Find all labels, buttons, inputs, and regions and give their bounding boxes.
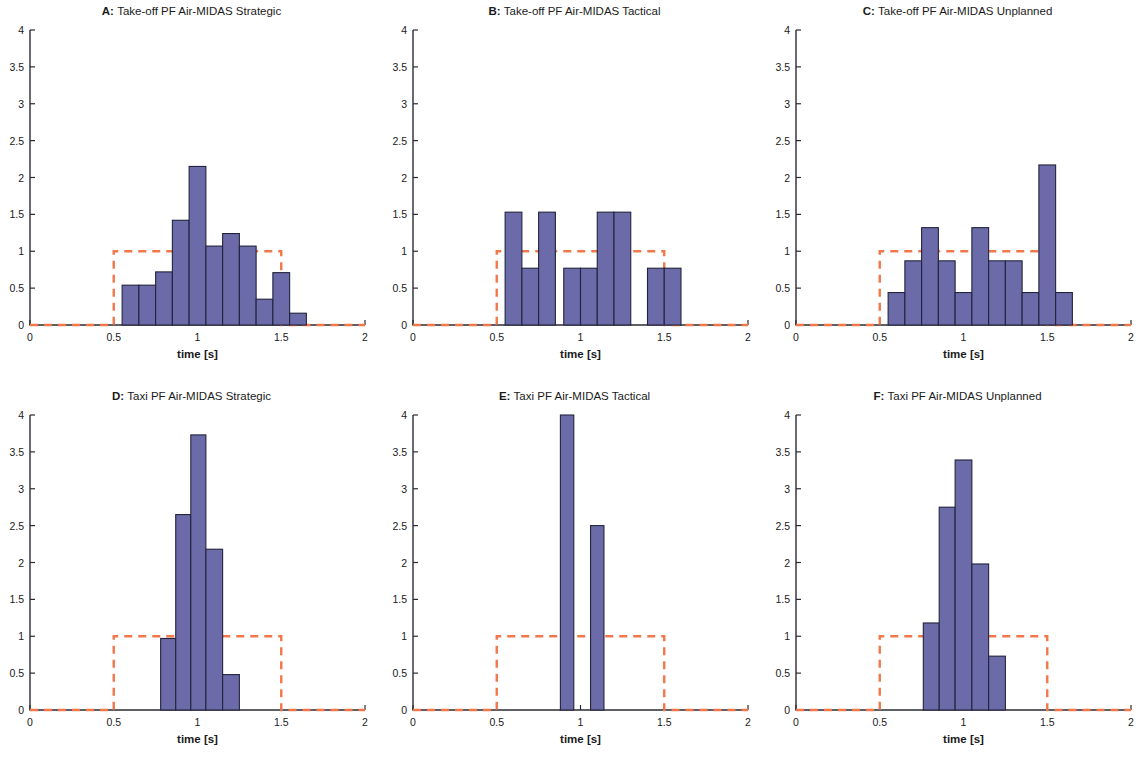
- svg-text:1.5: 1.5: [274, 716, 289, 728]
- histogram-bar: [597, 212, 614, 325]
- svg-text:2: 2: [401, 557, 407, 569]
- histogram-bar: [989, 261, 1006, 325]
- svg-text:1: 1: [401, 245, 407, 257]
- histogram-bar: [1022, 293, 1039, 325]
- svg-text:2: 2: [745, 716, 751, 728]
- panel-title: F: Taxi PF Air-MIDAS Unplanned: [873, 390, 1041, 402]
- svg-text:0.5: 0.5: [775, 282, 790, 294]
- svg-text:3: 3: [784, 98, 790, 110]
- svg-text:2.5: 2.5: [392, 135, 407, 147]
- y-axis-ticks: 00.511.522.533.54: [9, 409, 35, 716]
- reference-box: [413, 636, 748, 710]
- svg-text:2: 2: [401, 172, 407, 184]
- svg-text:0.5: 0.5: [392, 667, 407, 679]
- svg-text:1.5: 1.5: [775, 208, 790, 220]
- svg-text:1.5: 1.5: [392, 208, 407, 220]
- histogram-bar: [156, 272, 173, 325]
- histogram-bar: [591, 526, 604, 710]
- svg-text:0: 0: [410, 716, 416, 728]
- svg-text:3.5: 3.5: [392, 61, 407, 73]
- svg-text:1: 1: [578, 331, 584, 343]
- svg-text:4: 4: [401, 24, 407, 36]
- chart-panel-b: B: Take-off PF Air-MIDAS Tactical00.511.…: [383, 0, 766, 385]
- histogram-bars: [161, 435, 240, 710]
- svg-text:0: 0: [793, 331, 799, 343]
- svg-text:2: 2: [362, 331, 368, 343]
- svg-text:3.5: 3.5: [9, 446, 24, 458]
- y-axis-ticks: 00.511.522.533.54: [392, 24, 418, 331]
- histogram-bar: [122, 285, 139, 325]
- svg-text:3: 3: [401, 98, 407, 110]
- svg-text:0.5: 0.5: [489, 331, 504, 343]
- svg-text:2: 2: [1128, 331, 1134, 343]
- svg-text:1.5: 1.5: [9, 208, 24, 220]
- svg-text:1.5: 1.5: [1040, 716, 1055, 728]
- svg-text:0: 0: [784, 319, 790, 331]
- svg-text:0: 0: [18, 704, 24, 716]
- histogram-bars: [122, 166, 306, 325]
- histogram-bar: [922, 228, 939, 325]
- svg-text:4: 4: [784, 409, 790, 421]
- histogram-bar: [939, 507, 955, 710]
- chart-panel-f: F: Taxi PF Air-MIDAS Unplanned00.511.522…: [766, 385, 1148, 770]
- x-axis-label: time [s]: [177, 348, 218, 360]
- axes: [796, 30, 1131, 325]
- svg-text:1.5: 1.5: [775, 593, 790, 605]
- svg-text:4: 4: [18, 24, 24, 36]
- svg-text:0: 0: [18, 319, 24, 331]
- histogram-bar: [581, 268, 598, 325]
- histogram-bar: [972, 564, 989, 710]
- histogram-bar: [955, 293, 972, 325]
- svg-text:1: 1: [578, 716, 584, 728]
- x-axis-label: time [s]: [560, 733, 601, 745]
- svg-text:3: 3: [18, 483, 24, 495]
- svg-text:4: 4: [784, 24, 790, 36]
- svg-text:1.5: 1.5: [657, 716, 672, 728]
- histogram-bar: [172, 220, 189, 325]
- histogram-bar: [206, 549, 223, 710]
- histogram-bars: [560, 415, 604, 710]
- svg-text:0: 0: [401, 704, 407, 716]
- svg-text:0.5: 0.5: [489, 716, 504, 728]
- svg-text:3.5: 3.5: [775, 61, 790, 73]
- axes: [413, 415, 748, 710]
- histogram-bar: [1056, 293, 1073, 325]
- svg-text:1: 1: [18, 630, 24, 642]
- histogram-bar: [989, 656, 1006, 710]
- histogram-bar: [223, 675, 240, 710]
- svg-text:1: 1: [784, 630, 790, 642]
- svg-text:1: 1: [195, 331, 201, 343]
- chart-panel-d: D: Taxi PF Air-MIDAS Strategic00.511.522…: [0, 385, 383, 770]
- svg-text:1: 1: [18, 245, 24, 257]
- svg-text:1.5: 1.5: [392, 593, 407, 605]
- histogram-bar: [206, 246, 223, 325]
- svg-text:3.5: 3.5: [9, 61, 24, 73]
- svg-text:E: Taxi PF Air-MIDAS Tactical: E: Taxi PF Air-MIDAS Tactical: [499, 390, 650, 402]
- svg-text:0.5: 0.5: [9, 667, 24, 679]
- histogram-bar: [648, 268, 665, 325]
- histogram-bar: [955, 460, 972, 710]
- svg-text:3: 3: [18, 98, 24, 110]
- svg-text:1: 1: [961, 331, 967, 343]
- histogram-bar: [223, 234, 240, 325]
- svg-text:1: 1: [784, 245, 790, 257]
- y-axis-ticks: 00.511.522.533.54: [392, 409, 418, 716]
- svg-text:1: 1: [961, 716, 967, 728]
- svg-text:2: 2: [362, 716, 368, 728]
- svg-text:2: 2: [18, 172, 24, 184]
- svg-text:2.5: 2.5: [9, 520, 24, 532]
- svg-text:A: Take-off PF Air-MIDAS Strat: A: Take-off PF Air-MIDAS Strategic: [102, 5, 282, 17]
- panel-title: C: Take-off PF Air-MIDAS Unplanned: [863, 5, 1053, 17]
- svg-text:0.5: 0.5: [392, 282, 407, 294]
- svg-text:2.5: 2.5: [775, 520, 790, 532]
- x-axis-label: time [s]: [560, 348, 601, 360]
- histogram-bar: [560, 415, 573, 710]
- svg-text:3.5: 3.5: [775, 446, 790, 458]
- histogram-bar: [888, 293, 905, 325]
- svg-text:2: 2: [745, 331, 751, 343]
- panel-title: A: Take-off PF Air-MIDAS Strategic: [102, 5, 282, 17]
- chart-panel-e: E: Taxi PF Air-MIDAS Tactical00.511.522.…: [383, 385, 766, 770]
- histogram-bar: [290, 313, 307, 325]
- histogram-bar: [139, 285, 156, 325]
- y-axis-ticks: 00.511.522.533.54: [775, 409, 801, 716]
